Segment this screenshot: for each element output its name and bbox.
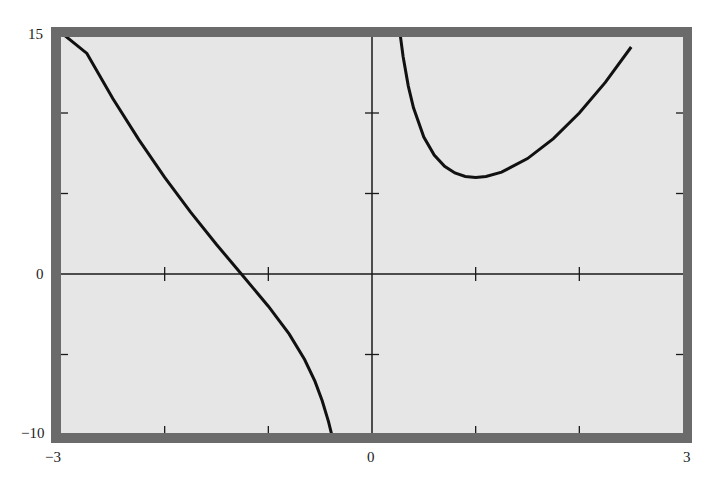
plot-canvas [0, 0, 724, 488]
y-tick-label-minus-10: −10 [21, 426, 44, 441]
x-tick-label-3: 3 [683, 450, 691, 465]
y-tick-label-0: 0 [36, 267, 44, 282]
x-tick-label-0: 0 [367, 450, 375, 465]
y-tick-label-15: 15 [28, 27, 43, 42]
x-tick-label-minus-3: −3 [45, 450, 61, 465]
